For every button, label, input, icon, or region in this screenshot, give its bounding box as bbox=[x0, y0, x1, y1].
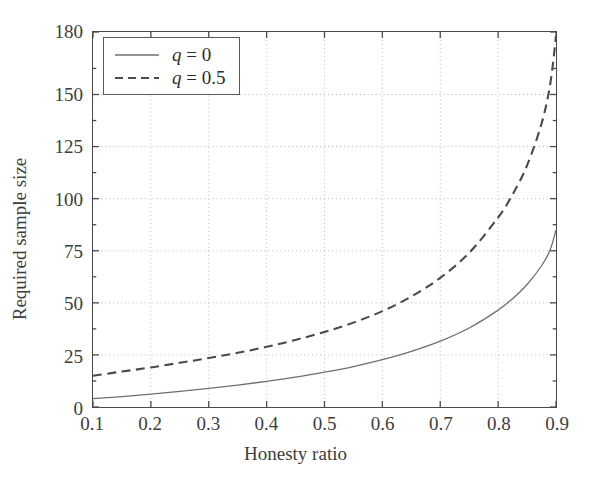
plot-area: q = 0 q = 0.5 bbox=[92, 31, 557, 408]
legend-symbol-q: q bbox=[172, 67, 182, 88]
y-axis-tick-labels: 0255075100125150180 bbox=[0, 0, 83, 478]
legend-item-dashed: q = 0.5 bbox=[114, 66, 225, 89]
legend-swatch-dashed-line bbox=[114, 71, 160, 85]
x-tick-label: 0.4 bbox=[255, 414, 279, 433]
y-tick-label: 180 bbox=[55, 22, 84, 41]
legend-value-q05: = 0.5 bbox=[182, 67, 226, 88]
y-tick-label: 75 bbox=[64, 241, 83, 260]
x-tick-label: 0.1 bbox=[80, 414, 104, 433]
x-tick-label: 0.7 bbox=[429, 414, 453, 433]
x-tick-label: 0.9 bbox=[545, 414, 569, 433]
x-tick-label: 0.3 bbox=[196, 414, 220, 433]
y-tick-label: 50 bbox=[64, 294, 83, 313]
x-tick-label: 0.5 bbox=[313, 414, 337, 433]
y-tick-label: 100 bbox=[55, 189, 84, 208]
legend-label-q0: q = 0 bbox=[172, 45, 211, 64]
x-tick-label: 0.2 bbox=[138, 414, 162, 433]
chart-figure: Required sample size 0255075100125150180… bbox=[0, 0, 591, 478]
legend-label-q05: q = 0.5 bbox=[172, 68, 225, 87]
y-tick-label: 25 bbox=[64, 346, 83, 365]
legend-swatch-solid-line bbox=[114, 48, 160, 62]
y-tick-label: 150 bbox=[55, 84, 84, 103]
legend-value-q0: = 0 bbox=[182, 44, 212, 65]
legend-symbol-q: q bbox=[172, 44, 182, 65]
y-tick-label: 125 bbox=[55, 137, 84, 156]
x-tick-label: 0.8 bbox=[487, 414, 511, 433]
legend-item-solid: q = 0 bbox=[114, 43, 225, 66]
series-line-0 bbox=[93, 230, 556, 399]
x-tick-label: 0.6 bbox=[371, 414, 395, 433]
x-axis-title: Honesty ratio bbox=[0, 443, 591, 465]
x-axis-tick-labels: 0.10.20.30.40.50.60.70.80.9 bbox=[0, 414, 591, 440]
legend: q = 0 q = 0.5 bbox=[103, 37, 240, 95]
